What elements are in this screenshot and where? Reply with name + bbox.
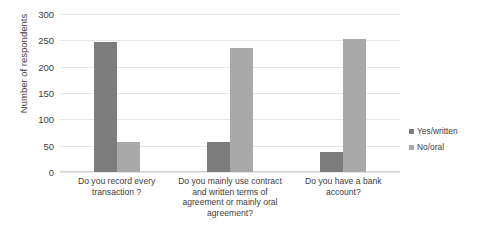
plot-area: 300250200150100500 <box>60 14 400 172</box>
bar-group <box>60 14 173 172</box>
legend-item[interactable]: Yes/written <box>409 126 458 136</box>
legend-label: No/oral <box>417 142 444 152</box>
y-tick-label-150: 150 <box>38 88 54 99</box>
x-category-label: Do you record everytransaction ? <box>60 176 173 218</box>
y-tick-label-200: 200 <box>38 61 54 72</box>
bar[interactable] <box>117 142 140 172</box>
bar-group <box>173 14 286 172</box>
y-tick-label-0: 0 <box>49 167 54 178</box>
bar[interactable] <box>207 142 230 172</box>
y-tick-label-50: 50 <box>43 140 54 151</box>
bar[interactable] <box>343 39 366 172</box>
y-tick-label-250: 250 <box>38 35 54 46</box>
legend-swatch-icon <box>409 129 414 134</box>
legend-label: Yes/written <box>417 126 458 136</box>
bar[interactable] <box>320 152 343 172</box>
legend-swatch-icon <box>409 145 414 150</box>
legend-item[interactable]: No/oral <box>409 142 458 152</box>
x-category-label: Do you have a bank account? <box>287 176 400 218</box>
bar-group <box>287 14 400 172</box>
gridline-0 <box>60 172 400 173</box>
x-axis-category-labels: Do you record everytransaction ?Do you m… <box>60 176 400 218</box>
bar[interactable] <box>230 48 253 172</box>
chart-legend: Yes/writtenNo/oral <box>409 126 458 158</box>
y-tick-label-100: 100 <box>38 114 54 125</box>
bar[interactable] <box>94 42 117 172</box>
bar-chart: Number of respondents 300250200150100500… <box>0 0 484 244</box>
bar-groups <box>60 14 400 172</box>
x-category-label: Do you mainly use contractand written te… <box>173 176 286 218</box>
y-axis-title: Number of respondents <box>18 0 29 139</box>
y-tick-label-300: 300 <box>38 9 54 20</box>
